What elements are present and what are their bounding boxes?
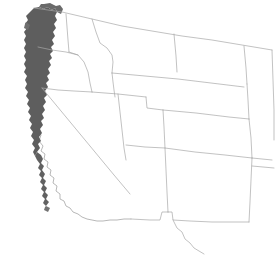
border-oregon-nevada-california [42,88,92,92]
highlight-coastal-fringe-south [44,206,50,212]
border-washington-idaho [66,14,69,52]
border-utah-colorado [163,110,165,148]
border-colorado-kansas [249,119,252,158]
western-us-map-svg [0,0,279,267]
border-idaho-nevada-utah [92,92,146,97]
border-newmexico-texas [249,158,252,222]
map-figure [0,0,279,267]
border-arizona-newmexico [165,148,168,212]
border-colorado-oklahoma-tick [252,158,272,160]
border-montana-northdakota [174,34,177,72]
border-eastern-edge [247,84,249,119]
border-arizona-mexico [131,212,168,220]
border-frame-east [272,50,274,140]
border-wyoming-colorado [163,110,249,119]
highlight-washington-oregon [24,7,57,156]
figure-caption [0,247,279,267]
border-newmexico-southern [168,212,249,222]
border-utah-wyoming [146,97,163,110]
border-oregon-idaho [69,52,92,92]
border-idaho-montana [92,19,113,73]
border-california-nevada [42,88,130,194]
highlight-northern-california [35,152,49,206]
state-boundaries-group [34,8,274,254]
border-montana-wyoming [112,73,244,87]
border-canada-us [34,8,272,50]
highlighted-coastal-region [24,3,63,212]
border-wyoming-southdakota [244,46,247,84]
border-newmexico-oklahoma-tick [252,166,274,168]
border-nevada-utah [118,94,126,160]
border-utah-arizona-colorado-newmexico [126,145,252,158]
